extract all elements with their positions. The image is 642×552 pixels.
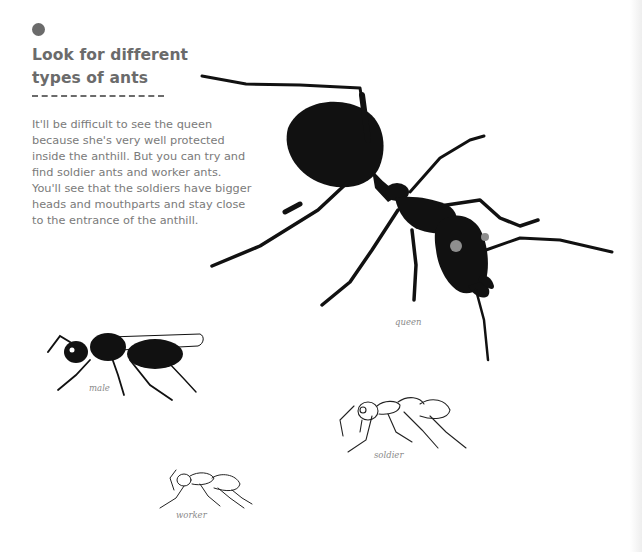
queen-caption: queen	[395, 317, 421, 327]
worker-caption: worker	[176, 510, 207, 520]
worker-ant-illustration	[0, 0, 642, 552]
soldier-caption: soldier	[374, 450, 403, 460]
male-caption: male	[89, 383, 110, 393]
